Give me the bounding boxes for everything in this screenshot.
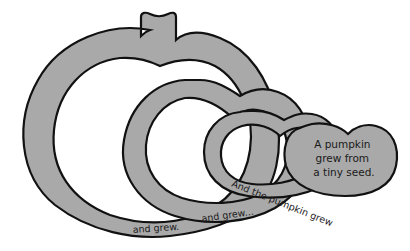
pumpkin-diagram: A pumpkin grew from a tiny seed. And the… xyxy=(0,0,410,251)
seed-label: A pumpkin grew from a tiny seed. xyxy=(313,138,374,178)
